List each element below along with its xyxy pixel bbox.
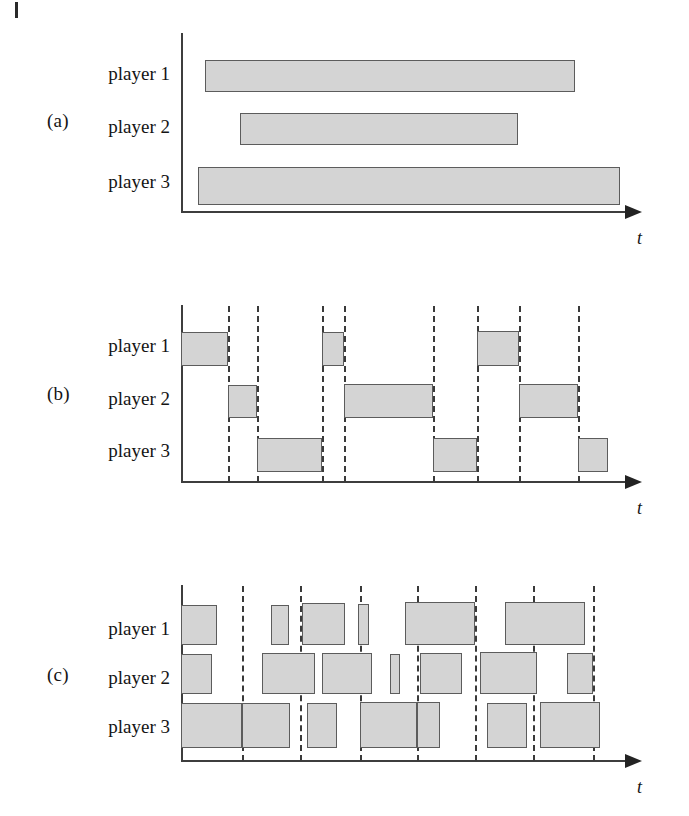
panel-c-bar-player-1 — [405, 602, 475, 645]
panel-b-caption: (b) — [47, 383, 70, 405]
panel-b-row-label-player-2: player 2 — [70, 388, 170, 410]
panel-c-x-axis — [181, 760, 629, 762]
panel-b-x-axis-arrow — [625, 475, 642, 489]
panel-b-bar-player-1 — [322, 332, 344, 366]
panel-b-bar-player-1 — [477, 331, 519, 366]
panel-c-x-axis-arrow — [625, 754, 642, 768]
panel-c-bar-player-2 — [390, 654, 400, 694]
panel-c-bar-player-2 — [181, 654, 212, 694]
panel-c-bar-player-3 — [417, 702, 440, 748]
panel-b-row-label-player-3: player 3 — [70, 440, 170, 462]
panel-b-bar-player-2 — [344, 384, 433, 418]
panel-b-bar-player-3 — [578, 438, 608, 472]
panel-b-axis-label-t: t — [637, 498, 642, 519]
panel-b-bar-player-3 — [257, 438, 322, 472]
panel-c-bar-player-3 — [360, 702, 417, 748]
panel-c-bar-player-3 — [181, 703, 242, 748]
panel-b-bar-player-3 — [433, 438, 477, 472]
panel-c-row-label-player-3: player 3 — [70, 716, 170, 738]
panel-b-bar-player-1 — [181, 332, 228, 366]
panel-c-caption: (c) — [47, 664, 69, 686]
panel-c-bar-player-1 — [358, 604, 369, 645]
panel-c-bar-player-3 — [307, 703, 337, 748]
panel-c-slice-divider — [475, 586, 477, 761]
panel-c-bar-player-2 — [420, 653, 462, 694]
panel-c: (c) player 1 player 2 player 3 t — [0, 0, 689, 256]
panel-b-x-axis — [181, 481, 629, 483]
panel-c-bar-player-2 — [262, 653, 315, 694]
panel-c-bar-player-2 — [480, 652, 537, 694]
panel-b-row-label-player-1: player 1 — [70, 335, 170, 357]
panel-b-bar-player-2 — [228, 385, 257, 418]
panel-c-row-label-player-2: player 2 — [70, 667, 170, 689]
panel-c-bar-player-3 — [540, 702, 600, 748]
panel-c-bar-player-1 — [181, 605, 217, 645]
panel-c-bar-player-2 — [567, 653, 593, 694]
panel-c-bar-player-2 — [322, 653, 372, 694]
panel-c-bar-player-1 — [302, 603, 345, 645]
panel-c-bar-player-3 — [487, 703, 527, 748]
panel-c-axis-label-t: t — [637, 777, 642, 798]
panel-c-bar-player-1 — [505, 602, 585, 645]
panel-c-bar-player-1 — [271, 605, 289, 645]
panel-b-bar-player-2 — [519, 384, 578, 418]
panel-c-bar-player-3 — [242, 703, 290, 748]
panel-c-row-label-player-1: player 1 — [70, 618, 170, 640]
